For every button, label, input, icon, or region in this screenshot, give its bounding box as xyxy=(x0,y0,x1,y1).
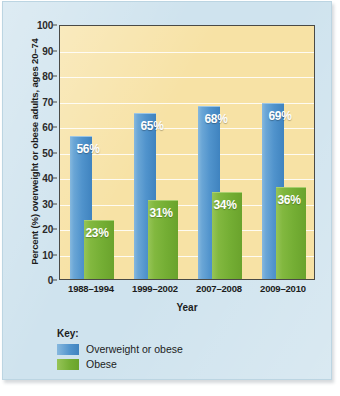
figure-card: Percent (%) overweight or obese adults, … xyxy=(2,1,332,380)
y-axis-tick-label: 60 xyxy=(42,122,53,133)
x-axis-tick-label: 2009–2010 xyxy=(251,283,315,294)
y-axis: 1009080706050403020100 xyxy=(25,25,57,280)
bar-value-label: 69% xyxy=(262,109,298,123)
blue-swatch-icon xyxy=(57,344,79,355)
bar-value-label: 68% xyxy=(198,112,234,126)
y-axis-tick-mark xyxy=(53,280,57,281)
green-swatch-icon xyxy=(57,359,79,370)
y-axis-tick-label: 20 xyxy=(42,224,53,235)
x-axis-title: Year xyxy=(59,302,315,313)
y-axis-tick-mark xyxy=(53,178,57,179)
legend-title: Key: xyxy=(57,328,277,339)
y-axis-tick-label: 90 xyxy=(42,45,53,56)
bar-obese: 36% xyxy=(276,187,306,279)
y-axis-tick-label: 80 xyxy=(42,71,53,82)
legend-item: Obese xyxy=(57,358,277,370)
bar-obese: 23% xyxy=(84,220,114,279)
plot-area: 56%23%65%31%68%34%69%36% xyxy=(59,25,315,280)
legend-item: Overweight or obese xyxy=(57,343,277,355)
y-axis-tick-mark xyxy=(53,76,57,77)
legend-rows: Overweight or obeseObese xyxy=(57,343,277,370)
bar-obese: 34% xyxy=(212,192,242,279)
legend-item-label: Overweight or obese xyxy=(86,343,183,355)
y-axis-tick-mark xyxy=(53,101,57,102)
bar-obese: 31% xyxy=(148,200,178,279)
x-axis-tick-label: 1988–1994 xyxy=(59,283,123,294)
legend: Key: Overweight or obeseObese xyxy=(57,328,277,373)
bar-value-label: 56% xyxy=(70,142,106,156)
y-axis-tick-label: 10 xyxy=(42,249,53,260)
bar-value-label: 23% xyxy=(80,226,114,240)
bar-value-label: 34% xyxy=(208,198,242,212)
x-axis-tick-label: 2007–2008 xyxy=(187,283,251,294)
y-axis-tick-label: 30 xyxy=(42,198,53,209)
y-axis-tick-mark xyxy=(53,25,57,26)
gridline xyxy=(60,52,314,53)
plot-wrap: 56%23%65%31%68%34%69%36% xyxy=(59,25,315,280)
y-axis-tick-label: 40 xyxy=(42,173,53,184)
bar-value-label: 31% xyxy=(144,206,178,220)
y-axis-tick-mark xyxy=(53,203,57,204)
y-axis-tick-mark xyxy=(53,127,57,128)
bar-value-label: 36% xyxy=(272,193,306,207)
gridline xyxy=(60,77,314,78)
legend-item-label: Obese xyxy=(86,358,117,370)
y-axis-tick-mark xyxy=(53,254,57,255)
y-axis-tick-label: 70 xyxy=(42,96,53,107)
y-axis-tick-mark xyxy=(53,50,57,51)
x-axis: 1988–19941999–20022007–20082009–2010 xyxy=(59,283,315,299)
y-axis-tick-mark xyxy=(53,152,57,153)
x-axis-tick-label: 1999–2002 xyxy=(123,283,187,294)
y-axis-tick-label: 50 xyxy=(42,147,53,158)
y-axis-tick-label: 100 xyxy=(37,20,53,31)
bar-value-label: 65% xyxy=(134,119,170,133)
y-axis-tick-mark xyxy=(53,229,57,230)
